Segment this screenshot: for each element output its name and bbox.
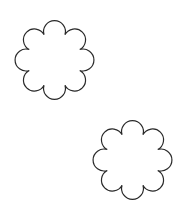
drawing-canvas <box>0 0 183 213</box>
scalloped-flower-bottom-right <box>93 121 172 200</box>
scalloped-flower-top-left <box>15 21 94 100</box>
